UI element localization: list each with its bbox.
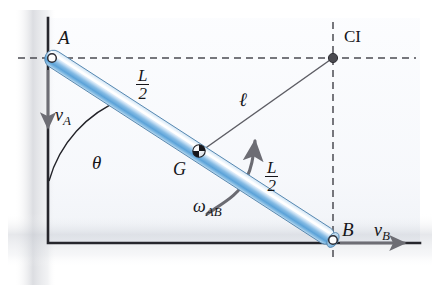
fraction-denominator: 2 <box>136 84 149 102</box>
label-point-g: G <box>173 160 186 178</box>
fraction-numerator: L <box>265 159 278 176</box>
fraction-denominator: 2 <box>265 176 278 194</box>
label-omega-ab: ωAB <box>193 197 222 219</box>
floor-shadow <box>8 213 432 267</box>
figure-canvas: A B G CI vA vB θ ωAB L 2 L 2 ℓ <box>0 0 435 289</box>
label-point-b: B <box>342 220 354 239</box>
velocity-b-subscript: B <box>382 228 390 243</box>
label-ell: ℓ <box>239 90 247 109</box>
center-of-mass-marker-g <box>193 145 205 157</box>
diagram-background <box>48 18 420 243</box>
label-length-half-upper: L 2 <box>136 67 149 103</box>
label-velocity-a: vA <box>55 106 71 128</box>
label-velocity-b: vB <box>374 221 390 243</box>
pin-joint-b <box>329 236 338 245</box>
label-length-half-lower: L 2 <box>265 159 278 195</box>
fraction-l-over-2-lower: L 2 <box>265 159 278 195</box>
pin-joint-a <box>48 54 57 63</box>
velocity-a-subscript: A <box>63 113 71 128</box>
label-theta: θ <box>92 153 101 172</box>
omega-subscript: AB <box>206 204 222 219</box>
ci-dot <box>328 53 337 62</box>
label-point-a: A <box>58 28 70 47</box>
velocity-a-symbol: v <box>55 105 63 125</box>
fraction-numerator: L <box>136 67 149 84</box>
label-ci: CI <box>344 28 361 45</box>
omega-symbol: ω <box>193 196 206 216</box>
velocity-b-symbol: v <box>374 220 382 240</box>
fraction-l-over-2-upper: L 2 <box>136 67 149 103</box>
